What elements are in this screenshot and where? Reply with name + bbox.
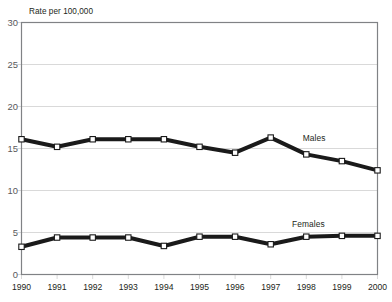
data-point-females-2000	[375, 233, 380, 238]
xtick-label-1998: 1998	[289, 283, 323, 292]
data-point-males-1997	[268, 135, 273, 140]
data-point-females-1998	[304, 234, 309, 239]
data-point-males-1990	[19, 137, 24, 142]
ytick-label-30: 30	[0, 18, 18, 27]
xtick-label-1996: 1996	[218, 283, 252, 292]
ytick-label-10: 10	[0, 186, 18, 195]
series-label-males: Males	[303, 133, 326, 143]
data-point-females-1994	[161, 243, 166, 248]
data-point-females-1991	[54, 235, 59, 240]
data-point-males-2000	[375, 168, 380, 173]
series-females	[19, 233, 380, 249]
xtick-label-2000: 2000	[361, 283, 392, 292]
xtick-label-1997: 1997	[254, 283, 288, 292]
xtick-label-1995: 1995	[183, 283, 217, 292]
xtick-label-1993: 1993	[111, 283, 145, 292]
series-males	[19, 135, 380, 173]
y-axis-caption: Rate per 100,000	[29, 7, 93, 16]
data-point-females-1993	[126, 235, 131, 240]
xtick-label-1992: 1992	[76, 283, 110, 292]
data-point-males-1991	[54, 144, 59, 149]
data-point-males-1995	[197, 144, 202, 149]
data-point-females-1999	[339, 233, 344, 238]
data-point-males-1998	[304, 152, 309, 157]
data-point-males-1996	[232, 150, 237, 155]
ytick-label-20: 20	[0, 102, 18, 111]
xtick-label-1990: 1990	[5, 283, 39, 292]
ytick-label-0: 0	[0, 270, 18, 279]
ytick-label-25: 25	[0, 60, 18, 69]
data-point-females-1996	[232, 234, 237, 239]
data-point-males-1993	[126, 137, 131, 142]
xtick-label-1994: 1994	[147, 283, 181, 292]
data-point-females-1995	[197, 234, 202, 239]
xtick-label-1999: 1999	[325, 283, 359, 292]
data-point-males-1992	[90, 137, 95, 142]
data-point-females-1992	[90, 235, 95, 240]
data-point-males-1999	[339, 158, 344, 163]
data-point-males-1994	[161, 137, 166, 142]
xtick-label-1991: 1991	[40, 283, 74, 292]
data-point-females-1990	[19, 244, 24, 249]
series-label-females: Females	[292, 219, 325, 229]
ytick-label-5: 5	[0, 228, 18, 237]
ytick-label-15: 15	[0, 144, 18, 153]
data-point-females-1997	[268, 242, 273, 247]
